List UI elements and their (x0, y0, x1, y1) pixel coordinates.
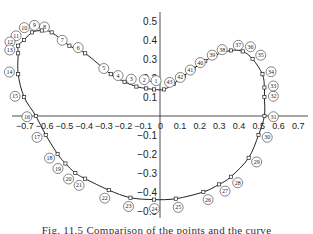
data-point-marker (241, 50, 244, 53)
point-label: 1 (155, 78, 158, 84)
kidney-curve-diagram: −0.7−0.6−0.5−0.4−0.3−0.2−0.100.10.20.30.… (0, 0, 313, 234)
data-point-marker (135, 85, 138, 88)
point-label: 33 (270, 83, 276, 89)
point-label: 37 (235, 42, 241, 48)
data-point-marker (30, 31, 33, 34)
data-points: 1234567891011121314151617181920212223242… (4, 20, 278, 213)
point-label: 14 (6, 69, 12, 75)
point-label: 42 (177, 74, 183, 80)
point-label: 4 (117, 73, 120, 79)
x-tick-label: 0.2 (193, 121, 206, 131)
point-label: 3 (130, 76, 133, 82)
data-point-marker (263, 95, 266, 98)
point-label: 24 (151, 206, 157, 212)
point-label: 36 (247, 44, 253, 50)
point-label: 40 (197, 60, 203, 66)
point-label: 34 (268, 69, 274, 75)
point-label: 17 (34, 134, 40, 140)
point-label: 22 (102, 195, 108, 201)
x-tick-label: −0.3 (95, 121, 113, 131)
point-label: 39 (209, 52, 215, 58)
data-point-marker (64, 162, 67, 165)
data-point-marker (257, 133, 260, 136)
y-tick-label: 0.3 (143, 54, 157, 65)
data-point-marker (263, 114, 266, 117)
point-label: 29 (254, 159, 260, 165)
point-label: 31 (270, 114, 276, 120)
x-tick-label: −0.5 (56, 121, 74, 131)
figure-caption: Fig. 11.5 Comparison of the points and t… (0, 224, 313, 234)
point-label: 32 (270, 93, 276, 99)
point-label: 13 (7, 47, 13, 53)
point-label: 25 (175, 204, 181, 210)
point-label: 10 (21, 25, 27, 31)
data-point-marker (162, 88, 165, 91)
data-point-marker (109, 73, 112, 76)
x-tick-label: −0.6 (36, 121, 54, 131)
y-tick-label: −0.2 (137, 149, 157, 160)
data-point-marker (229, 175, 232, 178)
point-label: 7 (61, 37, 64, 43)
data-point-marker (44, 133, 47, 136)
x-tick-labels: −0.7−0.6−0.5−0.4−0.3−0.2−0.100.10.20.30.… (16, 121, 304, 131)
x-tick-label: 0.3 (213, 121, 226, 131)
data-point-marker (263, 86, 266, 89)
data-point-marker (174, 197, 177, 200)
y-tick-label: −0.4 (137, 187, 157, 198)
point-label: 43 (167, 79, 173, 85)
point-label: 15 (12, 93, 18, 99)
data-point-marker (68, 44, 71, 47)
data-point-marker (218, 183, 221, 186)
y-tick-labels: 0.50.40.30.20.1−0.1−0.2−0.3−0.4−0.5 (137, 16, 157, 217)
x-tick-label: 0.6 (272, 121, 285, 131)
y-tick-label: −0.3 (137, 168, 157, 179)
point-label: 20 (66, 176, 72, 182)
point-label: 19 (55, 166, 61, 172)
point-label: 6 (77, 45, 80, 51)
point-label: 9 (33, 22, 36, 28)
data-point-marker (17, 52, 20, 55)
data-point-marker (107, 189, 110, 192)
data-point-marker (129, 196, 132, 199)
data-point-marker (261, 73, 264, 76)
y-tick-label: 0.4 (143, 35, 157, 46)
x-tick-label: 0.7 (292, 121, 305, 131)
point-label: 5 (102, 65, 105, 71)
point-label: 26 (205, 197, 211, 203)
point-label: 38 (219, 47, 225, 53)
x-tick-label: −0.2 (115, 121, 133, 131)
x-tick-label: 0 (158, 121, 163, 131)
point-label: 30 (264, 134, 270, 140)
data-point-marker (251, 57, 254, 60)
point-label: 16 (24, 114, 30, 120)
data-point-marker (123, 80, 126, 83)
point-label: 12 (7, 39, 13, 45)
data-point-marker (34, 114, 37, 117)
point-label: 2 (143, 77, 146, 83)
data-point-marker (17, 44, 20, 47)
data-point-marker (40, 29, 43, 32)
point-label: 28 (235, 180, 241, 186)
point-label: 41 (187, 67, 193, 73)
data-point-marker (84, 52, 87, 55)
y-tick-label: −0.1 (137, 130, 157, 141)
point-label: 18 (47, 155, 53, 161)
y-tick-label: 0.5 (143, 16, 157, 27)
data-point-marker (202, 190, 205, 193)
point-label: 11 (13, 33, 19, 39)
data-point-marker (229, 49, 232, 52)
x-tick-label: 0.1 (174, 121, 187, 131)
x-tick-label: 0.4 (233, 121, 246, 131)
x-tick-label: −0.4 (75, 121, 93, 131)
data-point-marker (50, 31, 53, 34)
data-point-marker (74, 171, 77, 174)
point-label: 27 (222, 188, 228, 194)
data-point-marker (152, 198, 155, 201)
data-point-marker (22, 95, 25, 98)
data-point-marker (152, 88, 155, 91)
point-label: 23 (126, 203, 132, 209)
y-tick-label: 0.1 (143, 92, 157, 103)
point-label: 35 (258, 52, 264, 58)
data-point-marker (84, 177, 87, 180)
point-label: 21 (76, 182, 82, 188)
